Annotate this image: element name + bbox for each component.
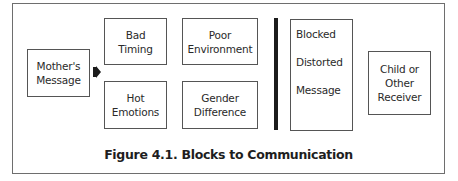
box-label-line: Child or [380, 62, 419, 76]
figure-caption: Figure 4.1. Blocks to Communication [12, 147, 445, 162]
box-label-line: Emotions [112, 105, 159, 119]
hot-emotions-box: Hot Emotions [104, 81, 167, 129]
gender-difference-box: Gender Difference [182, 81, 258, 129]
box-label-line: Other [385, 76, 414, 90]
box-label-line: Environment [188, 42, 253, 56]
box-label-line: Blocked [296, 27, 336, 41]
box-label-line: Hot [127, 91, 145, 105]
box-label-line: Receiver [378, 90, 422, 104]
box-label-line: Distorted [296, 55, 343, 69]
receiver-box: Child or Other Receiver [368, 51, 431, 115]
box-label-line: Poor [209, 28, 231, 42]
arrow-right-icon [93, 66, 101, 78]
box-label-line: Gender [201, 91, 239, 105]
poor-environment-box: Poor Environment [182, 18, 258, 65]
box-label-line: Message [296, 83, 341, 97]
barrier-bar [274, 18, 278, 130]
bad-timing-box: Bad Timing [104, 18, 167, 65]
box-label-line: Timing [118, 42, 152, 56]
blocked-distorted-message-box: Blocked Distorted Message [290, 19, 353, 131]
box-label-line: Message [36, 73, 81, 87]
box-label-line: Difference [194, 105, 246, 119]
mothers-message-box: Mother's Message [27, 49, 90, 97]
box-label-line: Mother's [37, 59, 81, 73]
box-label-line: Bad [126, 28, 146, 42]
